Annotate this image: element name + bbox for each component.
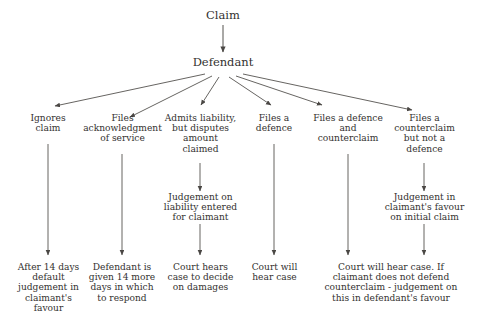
node-ignores-claim: Ignores claim: [14, 113, 82, 133]
node-line: on initial claim: [377, 212, 472, 222]
node-files-defence-and-counterclaim: Files a defence and counterclaim: [305, 113, 391, 144]
node-line: but disputes: [162, 123, 239, 133]
node-court-hear-counterclaim: Court will hear case. If claimant does n…: [311, 262, 471, 303]
node-line: claimant's: [9, 293, 88, 303]
node-line: default: [9, 272, 88, 282]
node-line: counterclaim - judgement on: [311, 282, 471, 292]
node-files-acknowledgment: Files acknowledgment of service: [80, 113, 165, 144]
node-line: Court will hear case. If: [311, 262, 471, 272]
edge-defendant-to-files-acknowledgment: [130, 76, 212, 117]
node-line: Files a: [389, 113, 460, 123]
node-line: defence: [243, 123, 305, 133]
node-claim-label: Claim: [193, 9, 253, 22]
node-line: for claimant: [157, 212, 244, 222]
node-default-judgement: After 14 days default judgement in claim…: [9, 262, 88, 313]
node-claim: Claim: [193, 9, 253, 22]
node-line: amount: [162, 133, 239, 143]
node-line: hear case: [243, 272, 306, 282]
node-line: claimant's favour: [377, 202, 472, 212]
node-defendant: Defendant: [188, 56, 258, 69]
edge-defendant-to-admits-liability: [201, 77, 219, 105]
node-line: counterclaim: [305, 133, 391, 143]
node-line: acknowledgment: [80, 123, 165, 133]
node-line: claimed: [162, 144, 239, 154]
node-judgement-on-liability: Judgement on liability entered for claim…: [157, 192, 244, 223]
node-line: defence: [389, 144, 460, 154]
node-line: given 14 more: [81, 272, 163, 282]
edge-defendant-to-files-counterclaim-no-defence: [243, 74, 412, 110]
node-line: but not a: [389, 133, 460, 143]
node-line: on damages: [159, 282, 242, 292]
node-line: of service: [80, 133, 165, 143]
node-line: this in defendant's favour: [311, 293, 471, 303]
node-line: claim: [14, 123, 82, 133]
node-files-defence: Files a defence: [243, 113, 305, 133]
node-line: After 14 days: [9, 262, 88, 272]
node-line: Admits liability,: [162, 113, 239, 123]
edge-defendant-to-files-defence-and-counterclaim: [236, 76, 322, 105]
node-line: Files a: [243, 113, 305, 123]
node-fourteen-more-days: Defendant is given 14 more days in which…: [81, 262, 163, 303]
node-line: Judgement on: [157, 192, 244, 202]
node-court-hears-damages: Court hears case to decide on damages: [159, 262, 242, 293]
node-line: counterclaim: [389, 123, 460, 133]
node-line: claimant does not defend: [311, 272, 471, 282]
node-line: to respond: [81, 293, 163, 303]
node-line: Files: [80, 113, 165, 123]
node-line: favour: [9, 303, 88, 313]
node-line: and: [305, 123, 391, 133]
node-admits-liability: Admits liability, but disputes amount cl…: [162, 113, 239, 154]
node-line: liability entered: [157, 202, 244, 212]
node-line: Court will: [243, 262, 306, 272]
edge-defendant-to-files-defence: [229, 77, 271, 105]
flowchart-canvas: Claim Defendant Ignores claim Files ackn…: [0, 0, 479, 325]
node-line: Judgement in: [377, 192, 472, 202]
node-defendant-label: Defendant: [188, 56, 258, 69]
node-line: Ignores: [14, 113, 82, 123]
node-files-counterclaim-no-defence: Files a counterclaim but not a defence: [389, 113, 460, 154]
node-line: case to decide: [159, 272, 242, 282]
node-judgement-claimant-favour: Judgement in claimant's favour on initia…: [377, 192, 472, 223]
node-line: Defendant is: [81, 262, 163, 272]
node-line: Court hears: [159, 262, 242, 272]
edge-defendant-to-ignores-claim: [55, 74, 205, 106]
node-line: days in which: [81, 282, 163, 292]
node-court-will-hear-case: Court will hear case: [243, 262, 306, 282]
node-line: Files a defence: [305, 113, 391, 123]
node-line: judgement in: [9, 282, 88, 292]
